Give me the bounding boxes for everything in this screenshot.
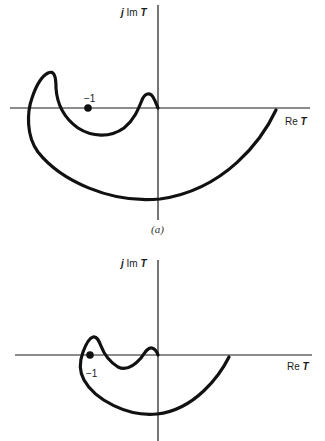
subfigure-caption: (a)	[151, 223, 164, 236]
nyquist-curve	[81, 337, 230, 414]
nyquist-diagram: −1 j Im T Re T (a) −1 j Im T Re T	[0, 0, 325, 441]
critical-point	[86, 351, 94, 359]
nyquist-plot-b: −1 j Im T Re T	[15, 258, 312, 441]
x-axis-label: Re T	[287, 361, 310, 372]
nyquist-plot-a: −1 j Im T Re T (a)	[10, 5, 310, 236]
y-axis-label: j Im T	[119, 258, 147, 269]
critical-point-label: −1	[84, 93, 96, 104]
y-axis-label: j Im T	[119, 7, 147, 18]
critical-point-label: −1	[86, 368, 98, 379]
x-axis-label: Re T	[285, 116, 308, 127]
critical-point	[84, 104, 92, 112]
nyquist-curve	[28, 72, 276, 199]
